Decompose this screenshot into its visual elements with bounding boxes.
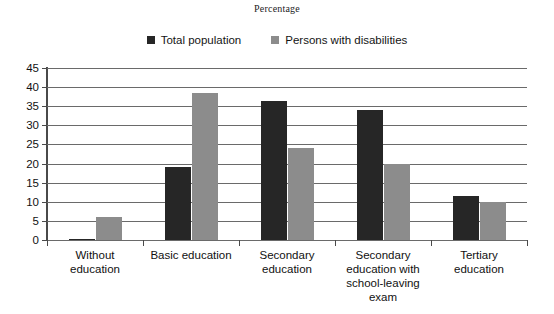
legend-label: Total population xyxy=(161,34,242,46)
x-axis-tick xyxy=(47,240,48,246)
x-axis-label-line: Tertiary xyxy=(431,248,527,262)
y-axis-tick xyxy=(42,144,47,145)
x-axis-label-line: exam xyxy=(335,290,431,304)
bar-0-0 xyxy=(69,239,95,240)
x-axis-label-line: Basic education xyxy=(143,248,239,262)
legend-item-total-population: Total population xyxy=(147,34,242,46)
x-axis-tick xyxy=(335,240,336,246)
x-axis-label-4: Tertiaryeducation xyxy=(431,248,527,276)
y-axis-tick-label: 40 xyxy=(26,81,39,93)
x-axis-tick xyxy=(143,240,144,246)
y-axis-tick xyxy=(42,164,47,165)
x-axis-tick xyxy=(527,240,528,246)
x-axis-label-line: education with xyxy=(335,262,431,276)
x-axis-tick xyxy=(239,240,240,246)
y-axis-tick xyxy=(42,106,47,107)
y-axis-tick-label: 10 xyxy=(26,196,39,208)
y-axis-tick xyxy=(42,183,47,184)
x-axis-label-line: Secondary xyxy=(335,248,431,262)
y-axis-tick xyxy=(42,125,47,126)
bar-group xyxy=(261,68,314,240)
x-axis-label-1: Basic education xyxy=(143,248,239,262)
x-axis-label-line: Without xyxy=(47,248,143,262)
x-axis-label-0: Withouteducation xyxy=(47,248,143,276)
y-axis-tick-label: 25 xyxy=(26,138,39,150)
x-axis-label-2: Secondaryeducation xyxy=(239,248,335,276)
bar-1-4 xyxy=(480,202,506,240)
bar-0-2 xyxy=(261,101,287,241)
x-axis-label-line: education xyxy=(239,262,335,276)
bar-0-1 xyxy=(165,167,191,240)
y-axis-tick-label: 45 xyxy=(26,62,39,74)
y-axis-tick xyxy=(42,221,47,222)
bar-group xyxy=(165,68,218,240)
chart-title: Percentage xyxy=(0,3,554,14)
bar-1-0 xyxy=(96,217,122,240)
bar-1-3 xyxy=(384,164,410,240)
y-axis-tick-label: 0 xyxy=(33,234,39,246)
x-axis-labels: WithouteducationBasic educationSecondary… xyxy=(47,248,527,314)
chart-legend: Total population Persons with disabiliti… xyxy=(0,34,554,46)
bar-group xyxy=(453,68,506,240)
legend-label: Persons with disabilities xyxy=(285,34,407,46)
y-axis-tick-label: 30 xyxy=(26,119,39,131)
y-axis-tick-label: 20 xyxy=(26,158,39,170)
bar-0-3 xyxy=(357,110,383,240)
y-axis-tick xyxy=(42,87,47,88)
x-axis-label-line: education xyxy=(47,262,143,276)
y-axis-tick-label: 5 xyxy=(33,215,39,227)
bar-1-1 xyxy=(192,93,218,240)
legend-item-persons-with-disabilities: Persons with disabilities xyxy=(271,34,407,46)
bar-1-2 xyxy=(288,148,314,240)
chart-plot-area: 051015202530354045 xyxy=(47,68,527,240)
y-axis-line xyxy=(46,67,48,241)
x-axis-label-3: Secondaryeducation withschool-leavingexa… xyxy=(335,248,431,304)
bar-group xyxy=(69,68,122,240)
y-axis-tick xyxy=(42,202,47,203)
bar-0-4 xyxy=(453,196,479,240)
y-axis-tick xyxy=(42,68,47,69)
bar-group xyxy=(357,68,410,240)
legend-swatch-icon xyxy=(147,36,155,44)
y-axis-tick-label: 15 xyxy=(26,177,39,189)
x-axis-label-line: education xyxy=(431,262,527,276)
legend-swatch-icon xyxy=(271,36,279,44)
x-axis-label-line: school-leaving xyxy=(335,276,431,290)
x-axis-label-line: Secondary xyxy=(239,248,335,262)
x-axis-tick xyxy=(431,240,432,246)
y-axis-tick-label: 35 xyxy=(26,100,39,112)
gridline xyxy=(47,240,527,241)
